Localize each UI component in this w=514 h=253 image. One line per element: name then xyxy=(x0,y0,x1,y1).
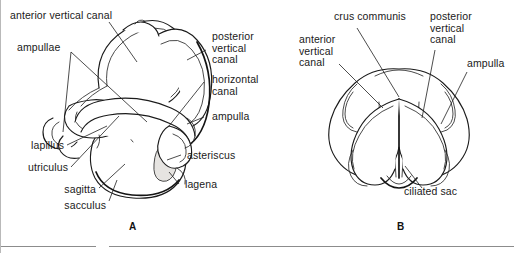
label-horizontal-canal: horizontal canal xyxy=(212,74,259,97)
label-sacculus: sacculus xyxy=(1,200,106,212)
label-crus-communis: crus communis xyxy=(334,11,406,23)
panel-b-artwork xyxy=(329,69,470,188)
label-ampulla-b: ampulla xyxy=(467,58,504,70)
bottom-rule-right xyxy=(109,246,514,247)
panel-a-artwork xyxy=(43,20,212,198)
label-posterior-vertical-canal-a: posterior vertical canal xyxy=(212,31,254,66)
label-sagitta: sagitta xyxy=(1,184,96,196)
label-anterior-vertical-canal-b: anterior vertical canal xyxy=(299,34,335,69)
figure-container: anterior vertical canal ampullae posteri… xyxy=(0,0,514,253)
label-ciliated-sac: ciliated sac xyxy=(404,186,457,198)
label-posterior-vertical-canal-b: posterior vertical canal xyxy=(430,11,472,46)
label-anterior-vertical-canal-a: anterior vertical canal xyxy=(10,10,112,22)
label-ampullae: ampullae xyxy=(17,42,60,54)
panel-letter-a: A xyxy=(129,221,137,232)
panel-letter-b: B xyxy=(397,221,405,232)
label-lapillus: lapillus xyxy=(1,140,64,152)
label-utriculus: utriculus xyxy=(1,162,68,174)
label-ampulla-a: ampulla xyxy=(212,111,249,123)
label-asteriscus: asteriscus xyxy=(187,150,235,162)
bottom-rule-left xyxy=(1,246,96,247)
label-lagena: lagena xyxy=(185,179,217,191)
